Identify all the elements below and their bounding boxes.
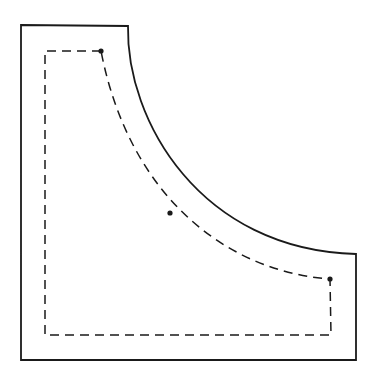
pattern-svg [0, 0, 374, 378]
marker-dot-top [98, 48, 103, 53]
outer-outline [21, 25, 356, 360]
pattern-diagram [0, 0, 374, 378]
marker-dot-middle [167, 210, 172, 215]
inner-seam-line [45, 51, 331, 335]
marker-dot-right [327, 276, 332, 281]
